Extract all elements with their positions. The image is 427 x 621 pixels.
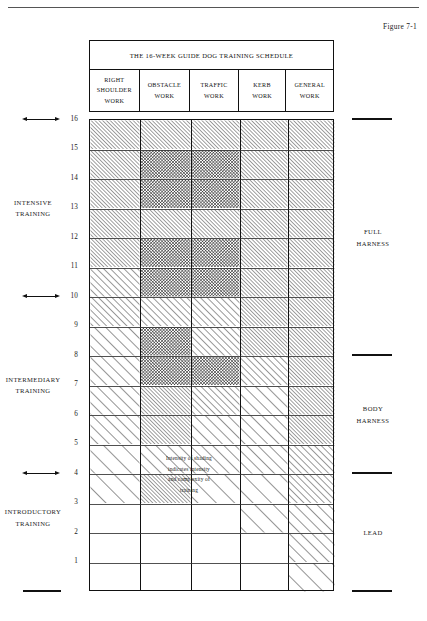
schedule-cell [140, 209, 191, 239]
week-number-6: 6 [62, 410, 78, 418]
grid-week-line [90, 474, 333, 475]
schedule-cell [191, 150, 240, 180]
schedule-cell [240, 474, 288, 504]
schedule-cell [288, 150, 335, 180]
schedule-cell [240, 386, 288, 416]
schedule-cell [288, 415, 335, 445]
week-number-10: 10 [62, 292, 78, 300]
equipment-divider-full-body [352, 354, 392, 356]
column-header-line: GENERAL [294, 80, 325, 90]
schedule-cell [90, 356, 140, 386]
schedule-cell [191, 474, 240, 504]
phase-divider-intermediary-introductory [22, 471, 60, 476]
schedule-cell [90, 415, 140, 445]
week-number-2: 2 [62, 528, 78, 536]
week-number-1: 1 [62, 557, 78, 565]
column-header-line: WORK [204, 91, 224, 101]
schedule-cell [288, 238, 335, 268]
week-number-7: 7 [62, 380, 78, 388]
schedule-cell [90, 474, 140, 504]
schedule-cell [90, 297, 140, 327]
schedule-cell [288, 504, 335, 534]
schedule-cell [240, 120, 288, 150]
schedule-cell [90, 209, 140, 239]
schedule-cell [140, 504, 191, 534]
equipment-divider-top [352, 118, 392, 120]
schedule-cell [90, 445, 140, 475]
phase-label-line: INTERMEDIARY [2, 374, 64, 386]
schedule-cell [90, 386, 140, 416]
schedule-cell [240, 533, 288, 563]
grid-week-line [90, 327, 333, 328]
schedule-cell [90, 327, 140, 357]
week-number-14: 14 [62, 174, 78, 182]
figure-page: Figure 7-1 THE 16-WEEK GUIDE DOG TRAININ… [0, 0, 427, 621]
column-header-traffic-work: TRAFFICWORK [190, 70, 239, 111]
grid-column-line [191, 120, 192, 590]
schedule-cell [288, 297, 335, 327]
schedule-cell [140, 415, 191, 445]
schedule-cell [191, 238, 240, 268]
phase-label-line: TRAINING [2, 518, 64, 530]
schedule-cell [90, 533, 140, 563]
schedule-cell [288, 445, 335, 475]
schedule-cell [240, 415, 288, 445]
grid-column-line [240, 120, 241, 590]
schedule-cell [240, 179, 288, 209]
schedule-cell [240, 209, 288, 239]
schedule-cell [191, 297, 240, 327]
arrow-bar [26, 296, 56, 297]
schedule-cell [288, 563, 335, 593]
column-header-obstacle-work: OBSTACLEWORK [140, 70, 191, 111]
grid-week-line [90, 150, 333, 151]
schedule-cell [140, 150, 191, 180]
schedule-cell [140, 120, 191, 150]
chart-title-box: THE 16-WEEK GUIDE DOG TRAINING SCHEDULE [89, 40, 334, 70]
equipment-label-body-harness: BODYHARNESS [344, 403, 402, 426]
week-number-13: 13 [62, 203, 78, 211]
schedule-cell [288, 120, 335, 150]
arrow-bar [26, 119, 56, 120]
schedule-cell [140, 356, 191, 386]
equipment-label-full-harness: FULLHARNESS [344, 226, 402, 249]
grid-week-line [90, 209, 333, 210]
schedule-cell [191, 533, 240, 563]
schedule-cell [140, 238, 191, 268]
equipment-label-line: FULL [344, 226, 402, 238]
schedule-cell [240, 563, 288, 593]
grid-week-line [90, 179, 333, 180]
schedule-cell [140, 327, 191, 357]
schedule-cell [288, 327, 335, 357]
schedule-cell [90, 150, 140, 180]
grid-week-line [90, 415, 333, 416]
grid-column-line [288, 120, 289, 590]
schedule-cell [240, 356, 288, 386]
schedule-cell [90, 120, 140, 150]
schedule-cell [191, 563, 240, 593]
column-header-line: OBSTACLE [148, 80, 181, 90]
column-header-line: WORK [104, 96, 124, 106]
phase-divider-intensive-intermediary [22, 294, 60, 299]
equipment-divider-bottom [352, 590, 392, 592]
schedule-cell [240, 238, 288, 268]
column-header-right-shoulder-work: RIGHTSHOULDERWORK [90, 70, 140, 111]
grid-week-line [90, 533, 333, 534]
week-number-8: 8 [62, 351, 78, 359]
column-header-line: WORK [252, 91, 272, 101]
column-header-line: KERB [253, 80, 270, 90]
phase-divider-bottom [23, 590, 61, 592]
column-header-line: WORK [300, 91, 320, 101]
phase-label-intensive: INTENSIVETRAINING [2, 197, 64, 220]
phase-label-line: INTENSIVE [2, 197, 64, 209]
schedule-cell [240, 445, 288, 475]
schedule-cell [288, 268, 335, 298]
schedule-cell [191, 327, 240, 357]
schedule-grid [89, 119, 334, 591]
schedule-cell [191, 268, 240, 298]
column-header-line: SHOULDER [97, 85, 132, 95]
schedule-cell [240, 504, 288, 534]
schedule-cell [240, 150, 288, 180]
equipment-label-line: BODY [344, 403, 402, 415]
schedule-cell [140, 179, 191, 209]
schedule-cell [90, 238, 140, 268]
